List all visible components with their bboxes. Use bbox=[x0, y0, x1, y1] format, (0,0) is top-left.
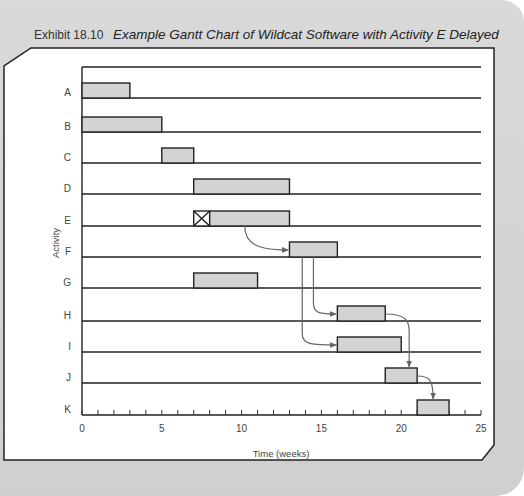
row-label-c: C bbox=[64, 152, 71, 163]
x-tick-label: 10 bbox=[236, 423, 248, 434]
chart-frame bbox=[4, 48, 494, 460]
bar-i bbox=[337, 337, 401, 352]
bar-j bbox=[385, 368, 417, 383]
row-label-e: E bbox=[64, 215, 71, 226]
bar-d bbox=[194, 179, 290, 194]
bar-k bbox=[417, 400, 449, 415]
bar-e bbox=[210, 211, 290, 226]
bar-a bbox=[82, 83, 130, 98]
x-tick-label: 20 bbox=[396, 423, 408, 434]
row-label-k: K bbox=[64, 404, 71, 415]
bar-c bbox=[162, 148, 194, 163]
row-label-i: I bbox=[68, 341, 71, 352]
row-label-j: J bbox=[66, 372, 71, 383]
row-label-f: F bbox=[65, 246, 71, 257]
x-tick-label: 15 bbox=[316, 423, 328, 434]
row-label-h: H bbox=[64, 310, 71, 321]
bar-b bbox=[82, 117, 162, 132]
row-label-d: D bbox=[64, 183, 71, 194]
x-tick-label: 0 bbox=[79, 423, 85, 434]
x-tick-label: 5 bbox=[159, 423, 165, 434]
bar-f bbox=[289, 242, 337, 257]
row-label-g: G bbox=[63, 277, 71, 288]
row-label-a: A bbox=[64, 87, 71, 98]
y-axis-title: Activity bbox=[50, 228, 61, 258]
x-axis-title: Time (weeks) bbox=[253, 448, 310, 459]
bar-g bbox=[194, 273, 258, 288]
bar-h bbox=[337, 306, 385, 321]
x-tick-label: 25 bbox=[475, 423, 487, 434]
row-label-b: B bbox=[64, 121, 71, 132]
gantt-chart: ABCDEFGHIJK0510152025Time (weeks)Activit… bbox=[0, 0, 524, 496]
